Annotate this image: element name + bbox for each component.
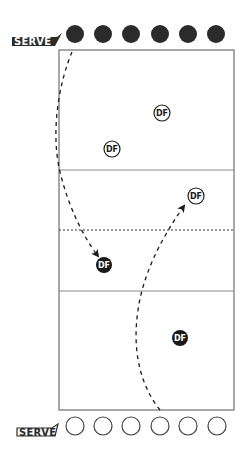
df-marker-5: DF xyxy=(172,330,188,346)
df-marker-3-label: DF xyxy=(190,192,202,201)
bottom-player-2 xyxy=(94,417,112,435)
serve-label-top: SERVE xyxy=(12,33,62,47)
df-marker-3: DF xyxy=(188,188,204,204)
serve-label-bottom: SERVE xyxy=(17,424,58,438)
serve-path-bottom xyxy=(136,206,184,410)
df-marker-2: DF xyxy=(104,141,120,157)
top-player-2 xyxy=(94,25,112,43)
df-marker-1: DF xyxy=(154,105,170,121)
bottom-player-4 xyxy=(151,417,169,435)
top-team xyxy=(66,25,225,43)
serve-path-top xyxy=(56,52,98,256)
df-marker-5-label: DF xyxy=(174,334,186,343)
bottom-player-1 xyxy=(66,417,84,435)
serve-label-bottom-text: SERVE xyxy=(19,427,56,438)
top-player-4 xyxy=(151,25,169,43)
df-marker-4: DF xyxy=(96,257,112,273)
df-marker-2-label: DF xyxy=(106,145,118,154)
top-player-5 xyxy=(179,25,197,43)
top-player-6 xyxy=(207,25,225,43)
volleyball-court-diagram: SERVE SERVE DF DF DF DF xyxy=(0,0,247,462)
serve-label-top-text: SERVE xyxy=(14,36,51,47)
top-player-1 xyxy=(66,25,84,43)
top-player-3 xyxy=(122,25,140,43)
bottom-player-6 xyxy=(208,417,226,435)
bottom-player-5 xyxy=(179,417,197,435)
bottom-player-3 xyxy=(122,417,140,435)
df-marker-4-label: DF xyxy=(98,261,110,270)
bottom-team xyxy=(66,417,226,435)
df-marker-1-label: DF xyxy=(156,109,168,118)
